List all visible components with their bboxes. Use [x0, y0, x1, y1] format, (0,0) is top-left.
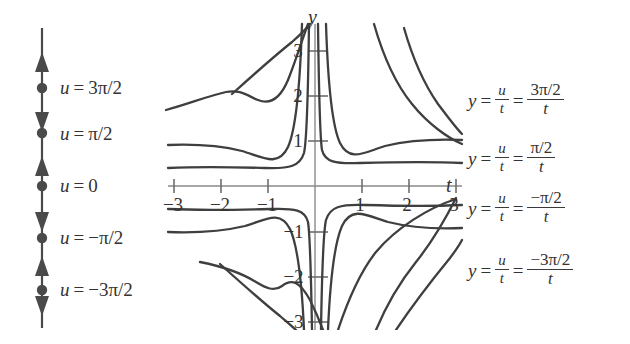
u-label-pi-over-2: u=π/2	[60, 124, 113, 143]
y-axis-label: y	[308, 6, 317, 29]
equation-3pi-over-2: y = u t = 3π/2 t	[468, 82, 564, 120]
equals-sign-2: =	[509, 91, 528, 110]
x-tick-label-3: 3	[446, 194, 462, 216]
equation-lhs: y	[468, 91, 476, 110]
equals-sign-1: =	[476, 261, 495, 280]
u-symbol: u	[60, 175, 70, 196]
equals-sign-2: =	[509, 149, 528, 168]
solution-curves-plot	[160, 0, 470, 344]
fraction-numerator: u	[495, 253, 509, 269]
u-value: π/2	[88, 123, 112, 144]
u-value: 3π/2	[88, 77, 122, 98]
equation-lhs: y	[468, 261, 476, 280]
y-tick-label-neg2: −2	[281, 266, 306, 288]
curve-wavy-upper-left	[166, 24, 308, 110]
fraction-value-over-t: −3π/2 t	[527, 251, 573, 289]
equilibrium-dot-2	[37, 128, 47, 138]
fraction-numerator: −3π/2	[527, 251, 573, 269]
phase-arrow-down-2	[35, 212, 49, 232]
x-tick-label-neg1: −1	[255, 194, 279, 216]
u-value: −3π/2	[88, 279, 133, 300]
u-label-neg-pi-over-2: u=−π/2	[60, 228, 123, 247]
u-value: 0	[88, 175, 98, 196]
equation-lhs: y	[468, 149, 476, 168]
fraction-numerator: −π/2	[527, 189, 564, 207]
u-phase-line	[22, 28, 62, 328]
equals-sign: =	[70, 175, 89, 196]
y-tick-label-neg3: −3	[281, 311, 306, 333]
y-tick-label-1: 1	[290, 130, 306, 152]
fraction-denominator: t	[527, 157, 555, 177]
equals-sign: =	[70, 77, 89, 98]
fraction-denominator: t	[527, 269, 573, 289]
fraction-denominator: t	[495, 157, 509, 175]
fraction-numerator: u	[495, 191, 509, 207]
x-tick-label-1: 1	[352, 194, 368, 216]
phase-arrow-down-3	[35, 296, 49, 316]
curve-3pi-over-2-right	[326, 24, 462, 154]
equals-sign-2: =	[509, 261, 528, 280]
phase-arrow-up-3	[35, 256, 49, 276]
fraction-u-over-t: u t	[495, 141, 509, 174]
fraction-denominator: t	[527, 207, 564, 227]
u-label-zero: u=0	[60, 176, 98, 195]
u-symbol: u	[60, 77, 70, 98]
u-symbol: u	[60, 123, 70, 144]
y-tick-label-3: 3	[290, 40, 306, 62]
fraction-value-over-t: 3π/2 t	[527, 81, 563, 119]
x-tick-label-neg3: −3	[161, 194, 185, 216]
y-tick-label-neg1: −1	[281, 221, 306, 243]
fraction-u-over-t: u t	[495, 191, 509, 224]
equals-sign-1: =	[476, 149, 495, 168]
phase-arrow-up-1	[35, 52, 49, 72]
equation-pi-over-2: y = u t = π/2 t	[468, 140, 555, 178]
equation-neg-pi-over-2: y = u t = −π/2 t	[468, 190, 565, 228]
equilibrium-dot-5	[37, 285, 47, 295]
fraction-denominator: t	[495, 269, 509, 287]
u-label-3pi-over-2: u=3π/2	[60, 78, 122, 97]
x-tick-label-neg2: −2	[208, 194, 232, 216]
equation-neg-3pi-over-2: y = u t = −3π/2 t	[468, 252, 573, 290]
x-tick-label-2: 2	[399, 194, 415, 216]
fraction-numerator: π/2	[527, 139, 555, 157]
curve-fall-upper-right-b	[404, 28, 462, 134]
fraction-numerator: 3π/2	[527, 81, 563, 99]
fraction-denominator: t	[495, 207, 509, 225]
fraction-numerator: u	[495, 83, 509, 99]
equilibrium-dot-3	[37, 181, 47, 191]
figure-root: u=3π/2 u=π/2 u=0 u=−π/2 u=−3π/2	[0, 0, 630, 344]
fraction-value-over-t: −π/2 t	[527, 189, 564, 227]
u-value: −π/2	[88, 227, 123, 248]
fraction-numerator: u	[495, 141, 509, 157]
fraction-denominator: t	[495, 99, 509, 117]
fraction-u-over-t: u t	[495, 83, 509, 116]
equals-sign: =	[70, 279, 89, 300]
equation-lhs: y	[468, 199, 476, 218]
equilibrium-dot-4	[37, 233, 47, 243]
equals-sign: =	[70, 227, 89, 248]
fraction-value-over-t: π/2 t	[527, 139, 555, 177]
curve-fall-upper-right-a	[374, 24, 462, 144]
u-symbol: u	[60, 227, 70, 248]
phase-arrow-up-2	[35, 156, 49, 176]
fraction-denominator: t	[527, 99, 563, 119]
equals-sign-1: =	[476, 199, 495, 218]
curve-neg-3pi-over-2-right	[328, 214, 462, 330]
equals-sign: =	[70, 123, 89, 144]
equilibrium-dot-1	[37, 83, 47, 93]
u-label-neg-3pi-over-2: u=−3π/2	[60, 280, 133, 299]
y-tick-label-2: 2	[290, 85, 306, 107]
curve-rise-lower-right-a	[338, 199, 456, 330]
u-symbol: u	[60, 279, 70, 300]
curve-rise-lower-right-c	[396, 240, 462, 330]
fraction-u-over-t: u t	[495, 253, 509, 286]
equals-sign-1: =	[476, 91, 495, 110]
equals-sign-2: =	[509, 199, 528, 218]
